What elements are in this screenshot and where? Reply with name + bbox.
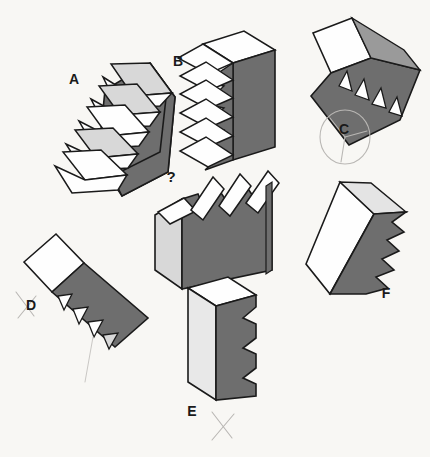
figure-c-label: C [339,121,349,137]
figure-b-dark-face [233,50,275,160]
question-mark-label: ? [166,168,175,185]
figure-a-label: A [69,71,79,87]
figure-d-label: D [26,297,36,313]
figure-f-label: F [382,285,391,301]
figure-e-label: E [187,403,196,419]
question-right-edge [266,182,272,274]
figure-e-left-face [188,288,216,400]
puzzle-illustration: A B C [0,0,430,457]
figure-b-label: B [173,53,183,69]
puzzle-stage: A B C [0,0,430,457]
